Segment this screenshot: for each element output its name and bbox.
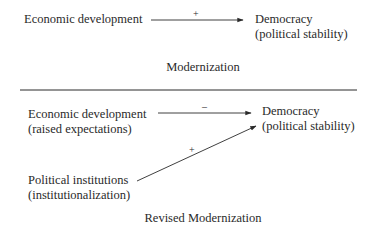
node-label: Economic development bbox=[24, 12, 142, 26]
node-sublabel: (political stability) bbox=[255, 27, 348, 42]
arrow-sign-negative: – bbox=[202, 102, 207, 112]
node-sublabel: (institutionalization) bbox=[28, 188, 130, 203]
node-political-institutions: Political institutions (institutionaliza… bbox=[28, 173, 130, 203]
node-democracy-bottom: Democracy (political stability) bbox=[262, 104, 355, 134]
arrow-sign-positive-bottom: + bbox=[189, 145, 195, 155]
arrow-sign-positive-top: + bbox=[193, 9, 199, 19]
node-label: Economic development bbox=[28, 107, 146, 122]
caption-revised-modernization: Revised Modernization bbox=[145, 211, 262, 226]
node-sublabel: (political stability) bbox=[262, 119, 355, 134]
node-economic-development-top: Economic development bbox=[24, 12, 142, 27]
node-economic-development-bottom: Economic development (raised expectation… bbox=[28, 107, 146, 137]
node-democracy-top: Democracy (political stability) bbox=[255, 12, 348, 42]
caption-modernization: Modernization bbox=[166, 60, 240, 75]
node-sublabel: (raised expectations) bbox=[28, 122, 146, 137]
arrow-inst-to-democracy bbox=[137, 126, 256, 181]
node-label: Democracy bbox=[262, 104, 355, 119]
node-label: Political institutions bbox=[28, 173, 130, 188]
node-label: Democracy bbox=[255, 12, 348, 27]
